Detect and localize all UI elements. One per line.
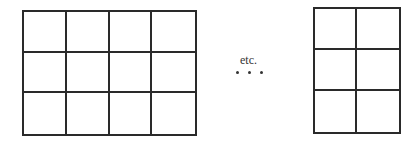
grid-cell: [152, 53, 195, 94]
grid-cell: [110, 53, 153, 94]
grid-cell: [315, 50, 357, 91]
grid-cell: [24, 53, 67, 94]
etc-label: etc.: [240, 53, 257, 68]
grid-cell: [67, 53, 110, 94]
left-grid-3x4: [22, 10, 197, 136]
right-grid-3x2: [313, 7, 401, 134]
grid-cell: [357, 91, 399, 132]
ellipsis-dot: [236, 71, 239, 74]
grid-cell: [67, 93, 110, 134]
grid-cell: [110, 93, 153, 134]
grid-cell: [67, 12, 110, 53]
ellipsis-dot: [260, 71, 263, 74]
grid-cell: [357, 9, 399, 50]
grid-cell: [315, 91, 357, 132]
grid-cell: [315, 9, 357, 50]
ellipsis-dot: [248, 71, 251, 74]
grid-cell: [110, 12, 153, 53]
grid-cell: [357, 50, 399, 91]
grid-cell: [152, 12, 195, 53]
grid-cell: [24, 12, 67, 53]
grid-cell: [152, 93, 195, 134]
grid-cell: [24, 93, 67, 134]
